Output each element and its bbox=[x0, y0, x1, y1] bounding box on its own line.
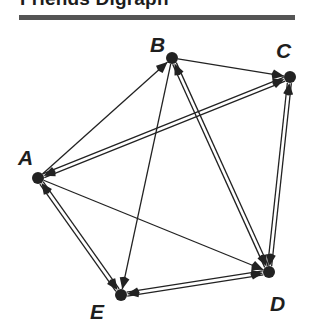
node-label-A: A bbox=[17, 146, 33, 169]
edge-C-D bbox=[266, 83, 293, 266]
edge-A-B bbox=[42, 62, 167, 174]
node-label-E: E bbox=[90, 300, 105, 323]
edge-E-D bbox=[127, 270, 264, 298]
edge-B-C bbox=[178, 59, 284, 79]
node-E bbox=[115, 289, 127, 301]
edge-A-E bbox=[40, 182, 119, 292]
node-label-D: D bbox=[270, 292, 285, 315]
node-label-B: B bbox=[150, 33, 165, 56]
digraph: ABCDE bbox=[0, 0, 311, 324]
node-label-C: C bbox=[276, 39, 292, 62]
edges-layer bbox=[40, 59, 293, 297]
labels-layer: ABCDE bbox=[17, 33, 292, 323]
node-A bbox=[32, 172, 44, 184]
node-B bbox=[166, 52, 178, 64]
edge-A-D bbox=[44, 180, 264, 270]
node-D bbox=[263, 266, 275, 278]
node-C bbox=[284, 71, 296, 83]
